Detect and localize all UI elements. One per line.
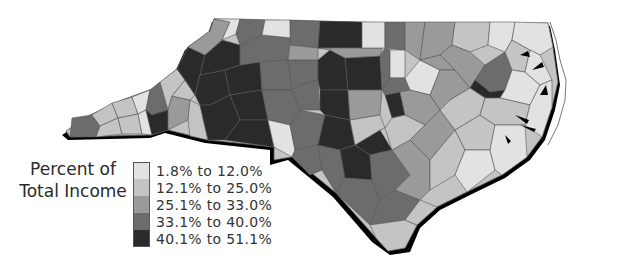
legend-label: 25.1% to 33.0% xyxy=(156,197,272,213)
legend: 1.8% to 12.0% 12.1% to 25.0% 25.1% to 33… xyxy=(133,162,272,247)
legend-label: 33.1% to 40.0% xyxy=(156,214,272,230)
county xyxy=(288,45,318,60)
county xyxy=(318,115,355,150)
legend-swatch xyxy=(133,162,150,179)
legend-item: 1.8% to 12.0% xyxy=(133,162,272,179)
county xyxy=(345,56,382,90)
nc-county-choropleth-map xyxy=(0,0,620,264)
legend-item: 12.1% to 25.0% xyxy=(133,179,272,196)
legend-item: 33.1% to 40.0% xyxy=(133,213,272,230)
county xyxy=(318,21,362,48)
legend-swatch xyxy=(133,196,150,213)
legend-title-line2: Total Income xyxy=(18,180,128,202)
county xyxy=(390,50,405,78)
county xyxy=(262,20,292,38)
county xyxy=(292,145,322,175)
county xyxy=(385,22,405,50)
county xyxy=(290,20,320,48)
legend-swatch xyxy=(133,213,150,230)
legend-swatch xyxy=(133,230,150,247)
legend-item: 25.1% to 33.0% xyxy=(133,196,272,213)
legend-label: 1.8% to 12.0% xyxy=(156,163,263,179)
county xyxy=(362,22,385,48)
legend-swatch xyxy=(133,179,150,196)
legend-title-line1: Percent of xyxy=(18,158,128,180)
legend-label: 12.1% to 25.0% xyxy=(156,180,272,196)
legend-item: 40.1% to 51.1% xyxy=(133,230,272,247)
legend-label: 40.1% to 51.1% xyxy=(156,231,272,247)
county xyxy=(490,125,527,175)
county xyxy=(260,60,292,90)
legend-title: Percent of Total Income xyxy=(18,158,128,202)
